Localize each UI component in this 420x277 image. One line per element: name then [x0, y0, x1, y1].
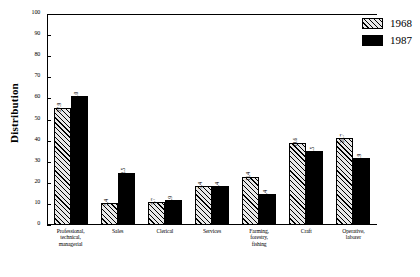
bar-value-label: 11.4: [245, 172, 251, 181]
y-axis-tick-label: 70: [34, 72, 40, 78]
x-axis-category-label: Professional,technical,managerial: [47, 228, 94, 247]
legend-label-1987: 1987: [390, 35, 412, 46]
bar-1987: 9.4: [212, 186, 229, 225]
bar-value-label: 17.5: [309, 147, 315, 156]
y-axis-tick-label: 0: [37, 220, 40, 226]
bar-value-label: 5.7: [151, 199, 157, 206]
bar-chart: Distribution 0102030405060708090100 27.9…: [0, 0, 420, 277]
legend: 1968 1987: [362, 18, 412, 52]
bar-1987: 6.9: [165, 200, 182, 225]
y-axis-title: Distribution: [5, 0, 23, 225]
y-axis-tick-label: 80: [34, 51, 40, 57]
x-axis-category-label: Sales: [94, 228, 141, 247]
y-axis-title-text: Distribution: [8, 83, 20, 143]
bar-value-label: 9.4: [198, 182, 204, 189]
bar-1987: 51.0: [71, 96, 88, 225]
bar-group: 5.412.5: [94, 14, 141, 225]
legend-swatch-1987: [362, 35, 383, 46]
bar-groups: 27.951.05.412.55.76.99.49.411.47.419.617…: [47, 14, 377, 225]
bar-value-label: 19.6: [292, 138, 298, 147]
legend-item-1968: 1968: [362, 18, 412, 29]
x-axis-labels: Professional,technical,managerialSalesCl…: [47, 228, 377, 247]
bar-1968: 9.4: [195, 186, 212, 225]
y-axis-tick-label: 90: [34, 30, 40, 36]
bar-1968: 5.7: [148, 202, 165, 225]
legend-label-1968: 1968: [390, 18, 412, 29]
bar-value-label: 9.4: [215, 182, 221, 189]
bar-1987: 12.5: [118, 173, 135, 225]
bar-value-label: 7.4: [262, 190, 268, 197]
bar-value-label: 27.9: [57, 103, 63, 112]
bar-value-label: 20.7: [339, 133, 345, 142]
bar-1987: 7.4: [259, 194, 276, 225]
y-axis-tick-label: 40: [34, 136, 40, 142]
bar-group: 11.47.4: [236, 14, 283, 225]
bar-group: 27.951.0: [47, 14, 94, 225]
bar-1968: 5.4: [101, 203, 118, 225]
y-axis-tick-label: 50: [34, 115, 40, 121]
x-axis-category-label: Services: [188, 228, 235, 247]
x-axis-category-label: Craft: [283, 228, 330, 247]
bar-value-label: 5.4: [104, 200, 110, 207]
bar-1968: 11.4: [242, 177, 259, 225]
legend-swatch-1968: [362, 18, 383, 29]
y-axis-tick-label: 100: [32, 9, 40, 15]
y-axis-tick-label: 60: [34, 93, 40, 99]
y-axis-tick-label: 10: [34, 199, 40, 205]
bar-value-label: 6.9: [168, 196, 174, 203]
bar-value-label: 51.0: [74, 92, 80, 101]
legend-item-1987: 1987: [362, 35, 412, 46]
y-axis-tick-label: 30: [34, 157, 40, 163]
x-axis-category-label: Farming,forestry,fishing: [236, 228, 283, 247]
bar-1987: 17.5: [306, 151, 323, 225]
bar-group: 19.617.5: [283, 14, 330, 225]
bar-1968: 27.9: [54, 108, 71, 225]
bar-group: 9.49.4: [188, 14, 235, 225]
bar-value-label: 15.9: [356, 154, 362, 163]
bar-1968: 19.6: [289, 143, 306, 225]
bar-1987: 15.9: [353, 158, 370, 225]
bar-1968: 20.7: [336, 138, 353, 225]
x-axis-category-label: Operative,laborer: [330, 228, 377, 247]
bar-value-label: 12.5: [121, 168, 127, 177]
y-axis-tick-mark: [47, 225, 51, 226]
x-axis-category-label: Clerical: [141, 228, 188, 247]
bar-group: 5.76.9: [141, 14, 188, 225]
y-axis-tick-label: 20: [34, 178, 40, 184]
